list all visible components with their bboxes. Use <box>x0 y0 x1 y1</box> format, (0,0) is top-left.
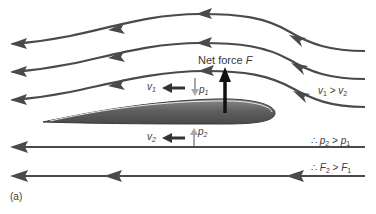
pressure-arrow-p2 <box>190 128 198 146</box>
pressure-arrow-p1 <box>191 78 199 96</box>
v2-label: v2 <box>147 132 156 143</box>
net-force-label: Net force F <box>198 55 252 66</box>
p1-label: p1 <box>199 85 208 96</box>
velocity-arrow-v1 <box>162 83 185 93</box>
arrowhead <box>108 79 125 90</box>
pressure-relation: ∴ p2 > p1 <box>311 136 350 147</box>
velocity-relation: v1 > v2 <box>318 86 347 97</box>
airfoil <box>43 99 275 124</box>
airfoil-diagram <box>0 0 376 214</box>
arrowhead <box>293 91 310 103</box>
force-relation: ∴ F2 > F1 <box>311 163 351 174</box>
arrowhead <box>289 35 306 47</box>
panel-label: (a) <box>10 192 22 202</box>
p2-label: p2 <box>198 127 207 138</box>
streamline-upper-2 <box>12 43 365 79</box>
arrowheads-upper <box>10 8 310 105</box>
v1-label: v1 <box>147 82 156 93</box>
streamline-upper-1 <box>12 14 365 51</box>
velocity-arrow-v2 <box>162 133 185 143</box>
